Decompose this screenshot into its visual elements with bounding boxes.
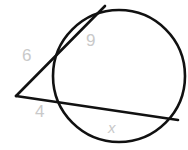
label-upper-external-segment: 6: [22, 47, 31, 64]
label-lower-chord-segment: x: [108, 120, 116, 135]
label-lower-external-segment: 4: [35, 103, 44, 120]
geometry-figure: 6 9 4 x: [0, 0, 188, 150]
label-upper-chord-segment: 9: [86, 32, 95, 49]
main-circle: [53, 10, 185, 142]
geometry-canvas: [0, 0, 188, 150]
